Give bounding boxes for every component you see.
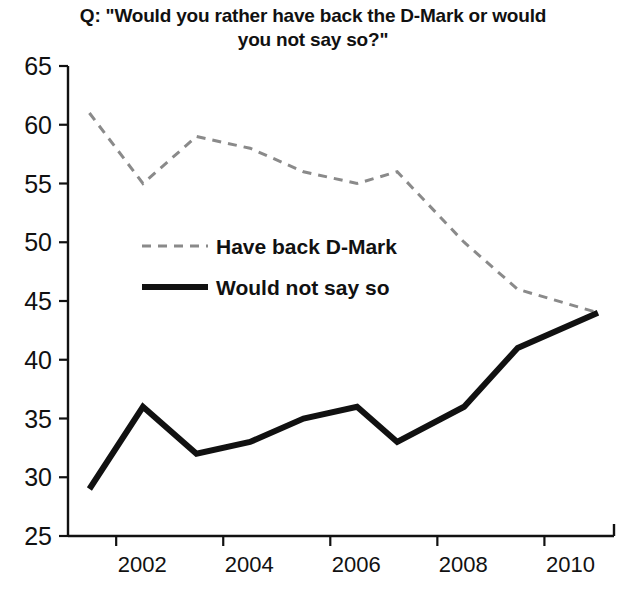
- y-axis-tick-label: 55: [0, 171, 52, 196]
- y-axis-tick-label: 40: [0, 347, 52, 372]
- y-axis-tick-label: 45: [0, 289, 52, 314]
- x-axis-tick-label: 2002: [87, 554, 197, 576]
- y-axis-tick-label: 50: [0, 230, 52, 255]
- x-axis-tick-label: 2004: [194, 554, 304, 576]
- legend-line-samples: [142, 246, 208, 287]
- y-axis-tick-label: 35: [0, 406, 52, 431]
- y-axis-tick-label: 60: [0, 112, 52, 137]
- x-axis-tick-label: 2008: [408, 554, 518, 576]
- data-series-group: [89, 113, 598, 489]
- y-axis-ticks: [59, 66, 68, 536]
- legend-label-would-not-say-so: Would not say so: [216, 277, 389, 298]
- legend-label-have-back-d-mark: Have back D-Mark: [216, 236, 397, 257]
- y-axis-tick-label: 65: [0, 54, 52, 79]
- series-line-would-not-say-so: [89, 313, 598, 489]
- x-axis-tick-label: 2010: [515, 554, 620, 576]
- axes: [68, 66, 614, 536]
- chart-container: Q: "Would you rather have back the D-Mar…: [0, 0, 620, 592]
- y-axis-tick-label: 25: [0, 524, 52, 549]
- x-axis-tick-label: 2006: [301, 554, 411, 576]
- x-axis-ticks: [116, 536, 544, 546]
- y-axis-tick-label: 30: [0, 465, 52, 490]
